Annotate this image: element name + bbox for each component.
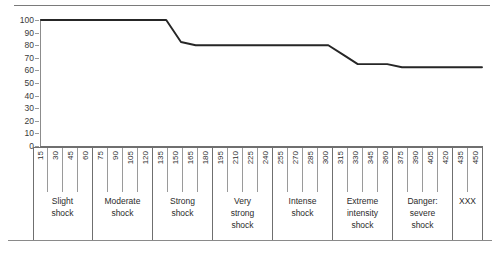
x-axis-tick-label: 60 bbox=[81, 151, 90, 160]
x-axis-tick: 435 bbox=[453, 148, 468, 192]
category-label-line: shock bbox=[411, 219, 433, 231]
x-axis-tick-label: 315 bbox=[336, 151, 345, 164]
plot-area: 1009080706050403020100 bbox=[0, 0, 494, 150]
x-axis-tick-label: 150 bbox=[171, 151, 180, 164]
category-cell: Strongshock bbox=[153, 191, 213, 240]
category-label-line: Extreme bbox=[347, 195, 379, 207]
category-label-line: shock bbox=[111, 207, 133, 219]
category-cell: Intenseshock bbox=[273, 191, 333, 240]
x-axis-tick-label: 75 bbox=[96, 151, 105, 160]
category-cell: Danger:severeshock bbox=[393, 191, 453, 240]
category-label-line: intensity bbox=[347, 207, 378, 219]
x-axis-tick: 60 bbox=[78, 148, 93, 192]
data-line bbox=[41, 20, 482, 67]
x-axis-tick-label: 240 bbox=[261, 151, 270, 164]
x-axis-tick: 75 bbox=[93, 148, 108, 192]
x-axis-tick-label: 15 bbox=[36, 151, 45, 160]
x-axis-tick: 285 bbox=[303, 148, 318, 192]
x-axis-tick-label: 165 bbox=[186, 151, 195, 164]
category-label-line: Intense bbox=[289, 195, 317, 207]
category-cell: XXX bbox=[453, 191, 483, 240]
x-axis-tick: 45 bbox=[63, 148, 78, 192]
x-axis-tick-label: 345 bbox=[366, 151, 375, 164]
bottom-rule bbox=[8, 240, 492, 241]
x-axis-tick-label: 210 bbox=[231, 151, 240, 164]
x-axis-tick-label: 360 bbox=[381, 151, 390, 164]
x-axis-tick: 225 bbox=[243, 148, 258, 192]
x-axis-tick: 450 bbox=[468, 148, 483, 192]
x-axis-tick-label: 375 bbox=[396, 151, 405, 164]
category-label-line: Slight bbox=[52, 195, 73, 207]
category-label-line: shock bbox=[231, 219, 253, 231]
x-axis-tick-label: 405 bbox=[426, 151, 435, 164]
x-axis-tick-label: 255 bbox=[276, 151, 285, 164]
obedience-series-line bbox=[0, 0, 494, 150]
x-axis-tick-label: 330 bbox=[351, 151, 360, 164]
x-axis-tick: 30 bbox=[48, 148, 63, 192]
x-axis-tick: 165 bbox=[183, 148, 198, 192]
x-axis-tick: 405 bbox=[423, 148, 438, 192]
x-axis-tick-label: 180 bbox=[201, 151, 210, 164]
category-label-line: shock bbox=[351, 219, 373, 231]
category-band: SlightshockModerateshockStrongshockVerys… bbox=[33, 191, 483, 240]
x-axis-tick: 90 bbox=[108, 148, 123, 192]
category-label-line: XXX bbox=[459, 195, 476, 207]
x-axis-tick-label: 120 bbox=[141, 151, 150, 164]
x-axis-tick: 105 bbox=[123, 148, 138, 192]
x-axis-tick: 315 bbox=[333, 148, 348, 192]
x-axis-tick-band: 1530456075901051201351501651801952102252… bbox=[33, 147, 483, 192]
x-axis-tick-label: 195 bbox=[216, 151, 225, 164]
chart-figure: 1009080706050403020100 15304560759010512… bbox=[0, 0, 494, 253]
category-cell: Extremeintensityshock bbox=[333, 191, 393, 240]
x-axis-tick: 150 bbox=[168, 148, 183, 192]
x-axis-tick-label: 90 bbox=[111, 151, 120, 160]
x-axis-tick-label: 225 bbox=[246, 151, 255, 164]
x-axis-tick-label: 105 bbox=[126, 151, 135, 164]
category-label-line: shock bbox=[51, 207, 73, 219]
x-axis-tick: 255 bbox=[273, 148, 288, 192]
x-axis-tick: 240 bbox=[258, 148, 273, 192]
x-axis-tick-label: 300 bbox=[321, 151, 330, 164]
category-cell: Verystrongshock bbox=[213, 191, 273, 240]
x-axis-tick: 330 bbox=[348, 148, 363, 192]
x-axis-tick: 270 bbox=[288, 148, 303, 192]
x-axis-tick-label: 435 bbox=[456, 151, 465, 164]
x-axis-tick-label: 135 bbox=[156, 151, 165, 164]
category-label-line: shock bbox=[291, 207, 313, 219]
category-label-line: Moderate bbox=[105, 195, 141, 207]
x-axis-tick-label: 420 bbox=[441, 151, 450, 164]
x-axis-tick: 300 bbox=[318, 148, 333, 192]
category-label-line: shock bbox=[171, 207, 193, 219]
category-label-line: severe bbox=[410, 207, 436, 219]
category-cell: Moderateshock bbox=[93, 191, 153, 240]
x-axis-tick: 210 bbox=[228, 148, 243, 192]
category-label-line: strong bbox=[231, 207, 255, 219]
x-axis-tick: 390 bbox=[408, 148, 423, 192]
category-label-line: Strong bbox=[170, 195, 195, 207]
x-axis-tick: 195 bbox=[213, 148, 228, 192]
x-axis-tick: 420 bbox=[438, 148, 453, 192]
x-axis-tick: 375 bbox=[393, 148, 408, 192]
category-cell: Slightshock bbox=[33, 191, 93, 240]
x-axis-tick-label: 30 bbox=[51, 151, 60, 160]
x-axis-tick-label: 450 bbox=[471, 151, 480, 164]
x-axis-tick-label: 390 bbox=[411, 151, 420, 164]
x-axis-tick-label: 270 bbox=[291, 151, 300, 164]
category-label-line: Very bbox=[234, 195, 251, 207]
x-axis-tick-label: 285 bbox=[306, 151, 315, 164]
x-axis-tick-label: 45 bbox=[66, 151, 75, 160]
x-axis-tick: 180 bbox=[198, 148, 213, 192]
x-axis-tick: 135 bbox=[153, 148, 168, 192]
x-axis-tick: 360 bbox=[378, 148, 393, 192]
x-axis-tick: 345 bbox=[363, 148, 378, 192]
x-axis-tick: 15 bbox=[33, 148, 48, 192]
category-label-line: Danger: bbox=[407, 195, 437, 207]
x-axis-tick: 120 bbox=[138, 148, 153, 192]
